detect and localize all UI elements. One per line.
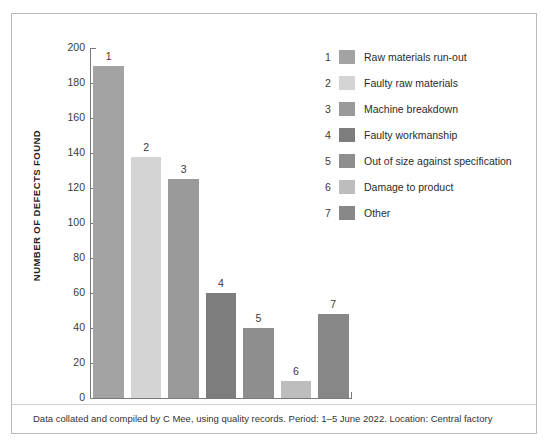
legend-swatch-icon — [339, 128, 355, 142]
bar-label: 1 — [93, 50, 124, 62]
y-tick-label: 60 — [73, 286, 85, 298]
legend-number: 6 — [325, 181, 339, 193]
legend-item-7: 7Other — [325, 200, 535, 226]
legend-label: Raw materials run-out — [364, 51, 467, 63]
y-axis-title: NUMBER OF DEFECTS FOUND — [31, 96, 42, 316]
y-tick-label: 40 — [73, 321, 85, 333]
y-tick-label: 180 — [67, 76, 85, 88]
legend-item-4: 4Faulty workmanship — [325, 122, 535, 148]
caption-divider — [12, 404, 536, 405]
legend-label: Faulty raw materials — [364, 77, 458, 89]
legend-swatch-icon — [339, 180, 355, 194]
legend-item-1: 1Raw materials run-out — [325, 44, 535, 70]
y-tick-label: 100 — [67, 216, 85, 228]
legend-item-5: 5Out of size against specification — [325, 148, 535, 174]
legend-number: 7 — [325, 207, 339, 219]
y-tick-label: 140 — [67, 146, 85, 158]
legend-number: 5 — [325, 155, 339, 167]
bar-group: 1234567 — [90, 48, 352, 398]
x-axis-line — [90, 398, 352, 399]
chart-legend: 1Raw materials run-out2Faulty raw materi… — [325, 44, 535, 226]
bar-label: 3 — [168, 163, 199, 175]
legend-label: Out of size against specification — [364, 155, 512, 167]
bar-label: 4 — [206, 277, 237, 289]
bar-2: 2 — [131, 157, 162, 399]
bar-4: 4 — [206, 293, 237, 398]
bar-6: 6 — [281, 381, 312, 399]
bar-label: 5 — [243, 312, 274, 324]
y-tick-0: 0 — [90, 398, 96, 399]
y-tick-label: 80 — [73, 251, 85, 263]
legend-swatch-icon — [339, 206, 355, 220]
bar-label: 7 — [318, 298, 349, 310]
chart-caption: Data collated and compiled by C Mee, usi… — [33, 413, 492, 424]
legend-swatch-icon — [339, 76, 355, 90]
bar-label: 2 — [131, 141, 162, 153]
legend-swatch-icon — [339, 102, 355, 116]
legend-swatch-icon — [339, 50, 355, 64]
y-tick-label: 20 — [73, 356, 85, 368]
y-tick-label: 120 — [67, 181, 85, 193]
y-tick-label: 0 — [79, 391, 85, 403]
legend-swatch-icon — [339, 154, 355, 168]
legend-item-2: 2Faulty raw materials — [325, 70, 535, 96]
legend-label: Damage to product — [364, 181, 453, 193]
bar-1: 1 — [93, 66, 124, 399]
legend-label: Machine breakdown — [364, 103, 458, 115]
legend-number: 2 — [325, 77, 339, 89]
bar-3: 3 — [168, 179, 199, 398]
legend-item-3: 3Machine breakdown — [325, 96, 535, 122]
bar-label: 6 — [281, 365, 312, 377]
chart-figure: NUMBER OF DEFECTS FOUND 2001801601401201… — [11, 13, 537, 434]
y-tick-label: 200 — [67, 41, 85, 53]
bar-7: 7 — [318, 314, 349, 398]
plot-area: NUMBER OF DEFECTS FOUND 2001801601401201… — [12, 14, 342, 394]
legend-number: 1 — [325, 51, 339, 63]
legend-item-6: 6Damage to product — [325, 174, 535, 200]
bar-5: 5 — [243, 328, 274, 398]
legend-number: 3 — [325, 103, 339, 115]
legend-label: Faulty workmanship — [364, 129, 457, 141]
legend-label: Other — [364, 207, 390, 219]
legend-number: 4 — [325, 129, 339, 141]
y-tick-label: 160 — [67, 111, 85, 123]
